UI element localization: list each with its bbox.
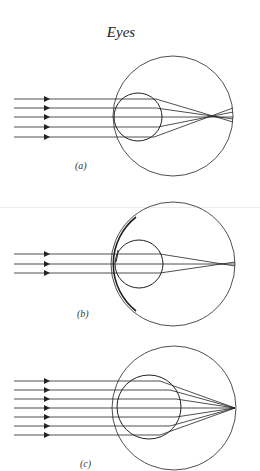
eye-diagram-b xyxy=(14,202,235,326)
panel-label-b: (b) xyxy=(77,308,89,319)
panel-label-c: (c) xyxy=(80,458,91,469)
eye-diagram-a xyxy=(14,56,233,176)
eye-diagram-c xyxy=(14,346,236,470)
eye-diagrams xyxy=(0,0,260,471)
lens-circle xyxy=(117,375,181,439)
panel-label-a: (a) xyxy=(75,160,87,171)
